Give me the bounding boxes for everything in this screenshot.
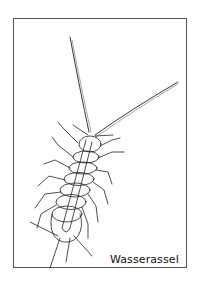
- right-antenna-inner: [96, 84, 178, 137]
- tail-plate: [51, 214, 82, 242]
- species-caption: Wasserassel: [110, 253, 179, 266]
- left-antenna-inner: [72, 40, 91, 132]
- water-louse-illustration: [0, 0, 200, 294]
- left-antenna: [70, 37, 89, 132]
- right-antenna: [95, 82, 178, 135]
